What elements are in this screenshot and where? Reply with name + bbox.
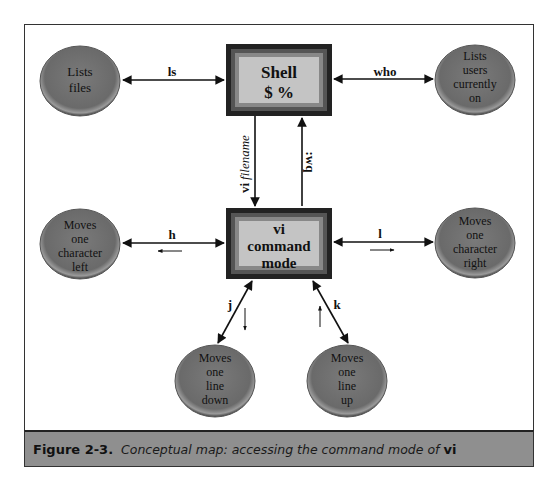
node-line: one	[338, 365, 355, 379]
edge-h: h	[123, 227, 224, 251]
edge-filename-label-italic: filename	[237, 135, 252, 180]
edge-k-arrow	[313, 281, 348, 343]
node-char-left: Moves one character left	[40, 209, 120, 279]
shell-box-line: Shell	[261, 63, 297, 82]
edge-wq-label: :wq	[303, 152, 318, 174]
edge-who: who	[334, 64, 433, 79]
node-line: down	[202, 393, 229, 407]
node-line: on	[469, 91, 481, 105]
figure-caption: Figure 2-3. Conceptual map: accessing th…	[24, 430, 534, 467]
node-line: Lists	[463, 49, 487, 63]
node-line-down: Moves one line down	[175, 345, 255, 417]
edge-l: l	[334, 226, 433, 250]
node-line: Moves	[64, 218, 97, 232]
node-line: line	[206, 379, 224, 393]
node-line: Moves	[331, 351, 364, 365]
edge-vi-filename: vifilename	[237, 116, 255, 206]
vi-box-line: mode	[262, 255, 297, 271]
edge-k: k	[313, 281, 348, 343]
node-line: left	[72, 260, 89, 274]
node-lists-files: Lists files	[40, 46, 120, 116]
vi-box-line: command	[247, 238, 311, 254]
edge-vi-filename-label: vifilename	[237, 135, 252, 193]
edge-vi-label-bold: vi	[237, 183, 252, 194]
node-line: users	[463, 63, 488, 77]
node-char-right: Moves one character right	[435, 208, 515, 278]
node-line: currently	[453, 77, 496, 91]
node-line: up	[341, 393, 353, 407]
edge-who-label: who	[373, 64, 396, 79]
edge-j-label: j	[227, 297, 232, 312]
node-line: character	[58, 246, 102, 260]
node-line: one	[71, 232, 88, 246]
node-line-up: Moves one line up	[307, 345, 387, 417]
shell-box: Shell $ %	[226, 44, 332, 116]
edge-wq: :wq	[302, 118, 318, 206]
caption-label: Figure 2-3.	[33, 442, 121, 457]
edge-ls-label: ls	[168, 64, 177, 79]
edge-j: j	[218, 281, 252, 343]
caption-emphasis: vi	[443, 442, 456, 457]
node-line: right	[464, 256, 487, 270]
node-lists-users: Lists users currently on	[435, 45, 515, 115]
edge-k-label: k	[333, 297, 341, 312]
concept-map: Shell $ % vi command mode Lists files Li…	[0, 0, 560, 494]
node-line: character	[453, 242, 497, 256]
node-line: line	[338, 379, 356, 393]
node-line: Lists	[67, 64, 92, 79]
edge-l-label: l	[378, 226, 382, 241]
node-line: files	[69, 80, 91, 95]
node-line: Moves	[199, 351, 232, 365]
vi-box-line: vi	[273, 221, 285, 237]
edge-h-label: h	[168, 227, 176, 242]
shell-box-line: $ %	[264, 83, 294, 102]
edge-j-arrow	[218, 281, 252, 343]
node-line: one	[206, 365, 223, 379]
node-line: one	[466, 228, 483, 242]
caption-body: Conceptual map: accessing the command mo…	[121, 442, 443, 457]
caption-text: Conceptual map: accessing the command mo…	[121, 442, 456, 457]
edge-ls: ls	[123, 64, 224, 80]
vi-command-mode-box: vi command mode	[226, 208, 332, 279]
node-line: Moves	[459, 214, 492, 228]
